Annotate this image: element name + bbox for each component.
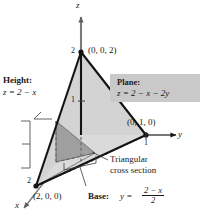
cross-section-label-line1: Triangular (110, 155, 148, 164)
z-tick-2-label: 2 (71, 47, 75, 55)
x-tick-2-label: 2 (27, 177, 31, 185)
z-tick-1-label: 1 (71, 96, 75, 104)
vertex-label-apex: (0, 0, 2) (88, 46, 117, 55)
figure-artwork (0, 0, 202, 222)
base-fraction-denominator: 2 (142, 195, 164, 205)
x-axis-label: x (15, 201, 19, 210)
y-tick-1-label: 1 (144, 139, 148, 147)
plane-annotation-title: Plane: (117, 77, 140, 87)
vertex-label-x: (2, 0, 0) (33, 192, 62, 201)
vertex-apex-dot (78, 49, 83, 54)
z-axis-label: z (76, 1, 80, 10)
base-annotation-fraction: 2 − x 2 (142, 186, 164, 205)
y-axis-label: y (178, 130, 182, 139)
base-annotation-title: Base: (88, 192, 109, 201)
height-annotation-equation: z = 2 − x (3, 88, 36, 97)
vertex-x-dot (33, 183, 38, 188)
plane-annotation-equation: z = 2 − x − 2y (117, 88, 169, 98)
vertex-label-y: (0, 1, 0) (127, 118, 156, 127)
plane-annotation-box: Plane: z = 2 − x − 2y (110, 74, 200, 102)
base-fraction-numerator: 2 − x (142, 186, 164, 195)
height-annotation-title: Height: (3, 76, 32, 85)
tetrahedron-figure: z y x 2 1 1 2 (0, 0, 2) (0, 1, 0) (2, 0,… (0, 0, 202, 222)
cross-section-label-line2: cross section (110, 166, 156, 175)
base-annotation-lhs: y = (120, 192, 132, 201)
